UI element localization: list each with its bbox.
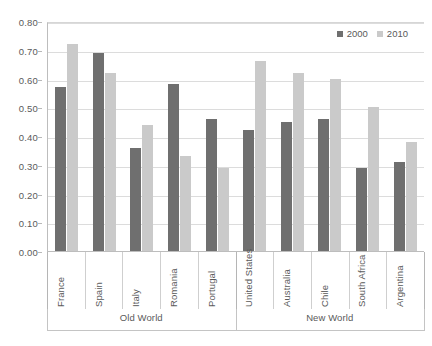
group-label-old-world: Old World [47,312,236,323]
category-label: South Africa [356,255,367,307]
plot-area [47,22,424,252]
y-axis-tick-label: 0.20 [19,189,38,200]
bar-2000-italy[interactable] [130,148,141,252]
y-axis-tick-mark [38,51,42,52]
bar-group [311,23,349,251]
bar-group [274,23,312,251]
bar-2000-south-africa[interactable] [356,168,367,251]
bar-2010-portugal[interactable] [218,168,229,251]
bar-2000-romania[interactable] [168,84,179,251]
bar-2000-portugal[interactable] [206,119,217,251]
group-edge [47,309,48,331]
bar-2000-chile[interactable] [318,119,329,251]
bar-group [48,23,86,251]
y-axis-tick-label: 0.80 [19,17,38,28]
category-label: France [55,277,66,307]
y-axis-tick-mark [38,22,42,23]
legend-swatch-icon [337,31,343,37]
legend-label: 2010 [387,28,408,39]
y-axis-tick-label: 0.60 [19,74,38,85]
category-label: Portugal [206,271,217,307]
y-axis-tick-label: 0.10 [19,218,38,229]
y-axis-tick-mark [38,137,42,138]
category-label-slot: Romania [160,252,198,309]
category-label: Argentina [394,265,405,307]
chart-legend: 20002010 [337,28,408,39]
bar-group [198,23,236,251]
bar-2010-italy[interactable] [142,125,153,252]
category-label-slot: Argentina [386,252,424,309]
legend-label: 2000 [347,28,368,39]
y-axis-tick-label: 0.50 [19,103,38,114]
y-axis-tick-mark [38,252,42,253]
bar-2000-united-states[interactable] [243,130,254,251]
legend-swatch-icon [377,31,383,37]
group-edge [424,309,425,331]
category-label-slot: Spain [85,252,123,309]
y-axis-tick-label: 0.70 [19,45,38,56]
y-axis-tick-mark [38,166,42,167]
y-axis: 0.000.100.200.300.400.500.600.700.80 [0,22,42,252]
legend-item-2000[interactable]: 2000 [337,28,368,39]
bar-2000-spain[interactable] [93,53,104,251]
bar-2010-spain[interactable] [105,73,116,251]
y-axis-tick-mark [38,195,42,196]
category-label-slot: Chile [311,252,349,309]
bars-layer [48,23,424,251]
category-label-slot: Portugal [198,252,236,309]
bar-group [86,23,124,251]
bar-2000-argentina[interactable] [394,162,405,251]
y-axis-tick-label: 0.40 [19,132,38,143]
category-label: Spain [93,282,104,307]
bar-2000-australia[interactable] [281,122,292,251]
category-label-slot: United States [236,252,274,309]
category-label: Australia [281,269,292,307]
bar-chart: 0.000.100.200.300.400.500.600.700.80 Fra… [0,0,432,346]
bar-group [386,23,424,251]
category-label-slot: Australia [273,252,311,309]
category-label: Chile [319,285,330,307]
category-label-slot: South Africa [349,252,387,309]
y-axis-tick-mark [38,223,42,224]
y-axis-tick-mark [38,80,42,81]
y-axis-tick-mark [38,108,42,109]
category-label: Italy [130,289,141,307]
category-label: Romania [168,268,179,307]
bar-2010-united-states[interactable] [255,61,266,251]
bar-group [161,23,199,251]
bar-2010-argentina[interactable] [406,142,417,251]
category-label: United States [243,249,254,307]
bar-2010-south-africa[interactable] [368,107,379,251]
category-axis-labels: FranceSpainItalyRomaniaPortugalUnited St… [47,252,424,309]
bar-2010-chile[interactable] [330,79,341,252]
category-label-slot: Italy [122,252,160,309]
y-axis-tick-label: 0.00 [19,247,38,258]
group-label-new-world: New World [236,312,425,323]
bar-group [349,23,387,251]
bar-group [236,23,274,251]
group-edge [236,309,237,331]
bar-2000-france[interactable] [55,87,66,251]
bar-group [123,23,161,251]
y-axis-tick-label: 0.30 [19,160,38,171]
category-label-slot: France [47,252,85,309]
bar-2010-france[interactable] [67,44,78,251]
bar-2010-romania[interactable] [180,156,191,251]
bar-2010-australia[interactable] [293,73,304,251]
legend-item-2010[interactable]: 2010 [377,28,408,39]
